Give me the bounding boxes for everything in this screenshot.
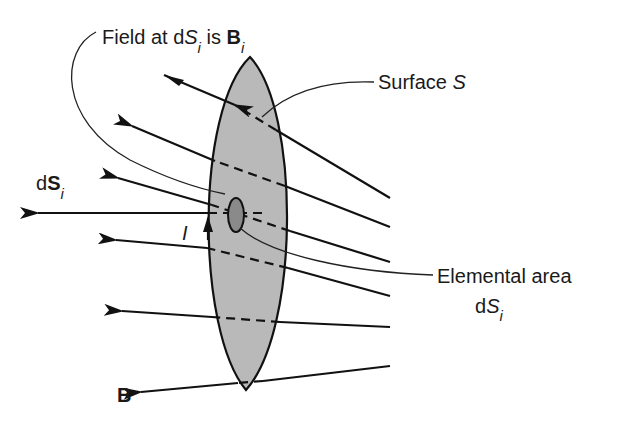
label-elemental-ds: dSi (475, 295, 503, 324)
leader-surface (262, 82, 374, 117)
label-surface: Surface S (378, 71, 466, 93)
label-field-at: Field at dSi is Bi (102, 26, 245, 56)
elemental-area (228, 198, 244, 232)
label-current-i: I (182, 222, 188, 244)
leader-field-at (72, 32, 225, 194)
label-normal-ds: dSi (36, 172, 64, 202)
label-elemental-area: Elemental area (437, 265, 572, 287)
flux-diagram: Field at dSi is Bi Surface S Elemental a… (0, 0, 617, 431)
label-field-b: B (117, 384, 131, 406)
surface-s (209, 57, 287, 390)
arrowhead-top (164, 75, 184, 86)
